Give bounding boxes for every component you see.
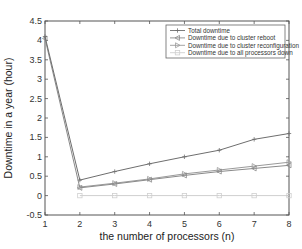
x-tick-label: 7 [252, 219, 257, 229]
y-tick-label: 1.5 [29, 132, 42, 142]
x-tick-label: 2 [77, 219, 82, 229]
line-chart: 12345678-0.500.511.522.533.544.5 the num… [0, 0, 302, 249]
x-tick-label: 4 [147, 219, 152, 229]
y-tick-label: 4 [37, 35, 42, 45]
legend-label: Downtime due to all processors down [188, 49, 293, 57]
y-tick-label: 2.5 [29, 94, 42, 104]
y-tick-label: 3 [37, 74, 42, 84]
y-tick-label: -0.5 [26, 210, 42, 220]
y-tick-label: 3.5 [29, 55, 42, 65]
y-tick-label: 0 [37, 191, 42, 201]
y-tick-label: 0.5 [29, 171, 42, 181]
y-tick-label: 4.5 [29, 16, 42, 26]
y-tick-label: 1 [37, 152, 42, 162]
x-tick-label: 6 [217, 219, 222, 229]
y-axis-label: Downtime in a year (hour) [2, 58, 14, 179]
x-tick-label: 5 [182, 219, 187, 229]
legend-item: Downtime due to all processors down [170, 49, 293, 57]
x-tick-label: 8 [286, 219, 291, 229]
legend: Total downtimeDowntime due to cluster re… [166, 25, 299, 58]
x-tick-label: 1 [42, 219, 47, 229]
legend-label: Downtime due to cluster reboot [188, 34, 275, 41]
legend-label: Total downtime [188, 27, 230, 34]
y-tick-label: 2 [37, 113, 42, 123]
x-tick-label: 3 [112, 219, 117, 229]
x-axis-label: the number of processors (n) [100, 230, 235, 242]
